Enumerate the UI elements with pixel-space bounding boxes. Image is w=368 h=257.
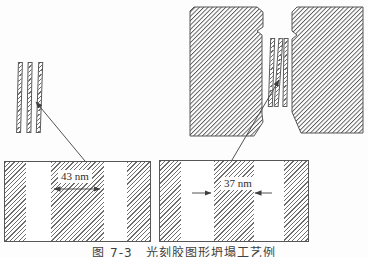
resist-line — [36, 62, 43, 133]
cross-section-37nm: 37 nm — [159, 160, 309, 242]
resist-line — [282, 38, 288, 107]
cross-section-43nm: 43 nm — [4, 161, 151, 242]
dimension-label-37nm: 37 nm — [221, 177, 255, 190]
dimension-label-43nm: 43 nm — [58, 170, 92, 183]
figure-canvas: 43 nm 37 nm 图 7-3 光刻胶图形坍塌工艺例 — [0, 0, 368, 257]
hatched-stripe — [284, 161, 308, 241]
etched-block-left — [190, 7, 263, 136]
figure-caption: 图 7-3 光刻胶图形坍塌工艺例 — [0, 246, 368, 257]
hatched-stripe — [160, 161, 181, 241]
collapsing-resist-lines-inset — [269, 38, 291, 108]
hatched-stripe — [127, 162, 150, 241]
etched-block-right — [292, 7, 363, 133]
hatched-stripe-measured — [214, 161, 254, 241]
standing-resist-lines-inset — [17, 62, 49, 134]
resist-line — [16, 62, 23, 133]
resist-line — [26, 62, 32, 133]
hatched-stripe — [5, 162, 26, 241]
